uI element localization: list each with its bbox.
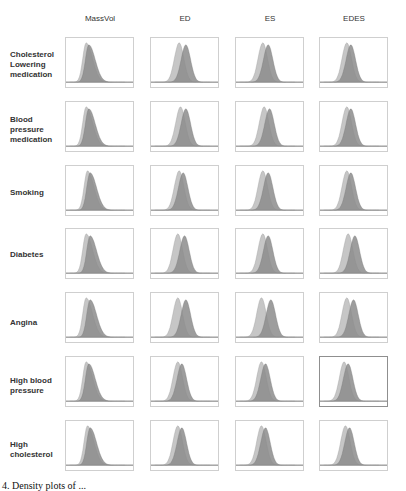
density-panel-ed-row-5 (150, 356, 219, 407)
row-label-cholesterol-lowering-medication: Cholesterol Lowering medication (10, 50, 66, 80)
density-panel-massvol-row-2 (65, 165, 134, 216)
density-panel-es-row-5 (235, 356, 304, 407)
density-panel-massvol-row-0 (65, 37, 134, 88)
column-header-edes: EDES (319, 14, 389, 23)
density-panel-ed-row-3 (150, 228, 219, 279)
density-panel-massvol-row-4 (65, 292, 134, 343)
density-panel-ed-row-0 (150, 37, 219, 88)
row-label-angina: Angina (10, 318, 66, 328)
row-label-high-cholesterol: High cholesterol (10, 440, 66, 460)
column-header-es: ES (235, 14, 305, 23)
density-panel-ed-row-4 (150, 292, 219, 343)
density-panel-es-row-2 (235, 165, 304, 216)
density-panel-massvol-row-1 (65, 101, 134, 152)
row-label-smoking: Smoking (10, 188, 66, 198)
density-panel-es-row-3 (235, 228, 304, 279)
density-panel-ed-row-6 (150, 420, 219, 471)
density-panel-massvol-row-3 (65, 228, 134, 279)
density-panel-es-row-4 (235, 292, 304, 343)
column-header-massvol: MassVol (65, 14, 135, 23)
row-label-high-blood-pressure: High blood pressure (10, 376, 66, 396)
density-panel-edes-row-2 (319, 165, 388, 216)
density-panel-edes-row-5 (319, 356, 388, 407)
density-panel-ed-row-1 (150, 101, 219, 152)
row-label-blood-pressure-medication: Blood pressure medication (10, 115, 66, 145)
density-panel-edes-row-6 (319, 420, 388, 471)
density-panel-edes-row-4 (319, 292, 388, 343)
density-panel-edes-row-1 (319, 101, 388, 152)
density-panel-massvol-row-5 (65, 356, 134, 407)
row-label-diabetes: Diabetes (10, 250, 66, 260)
density-panel-es-row-6 (235, 420, 304, 471)
figure-caption: 4. Density plots of ... (2, 480, 86, 491)
density-panel-ed-row-2 (150, 165, 219, 216)
density-panel-edes-row-0 (319, 37, 388, 88)
density-panel-es-row-0 (235, 37, 304, 88)
density-panel-edes-row-3 (319, 228, 388, 279)
density-panel-es-row-1 (235, 101, 304, 152)
density-panel-massvol-row-6 (65, 420, 134, 471)
column-header-ed: ED (150, 14, 220, 23)
